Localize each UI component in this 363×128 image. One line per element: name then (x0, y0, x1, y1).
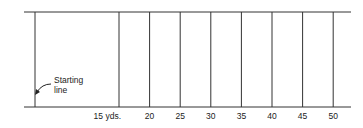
yard-label-30: 30 (206, 111, 216, 121)
yard-label-35: 35 (237, 111, 247, 121)
arrowhead-icon (35, 89, 40, 95)
yard-label-25: 25 (175, 111, 185, 121)
field-diagram: Starting line 15 yds.20253035404550 (0, 0, 363, 128)
yard-label-40: 40 (267, 111, 277, 121)
starting-label-line-1: Starting (54, 75, 84, 85)
yard-label-15: 15 yds. (94, 111, 121, 121)
yard-label-20: 20 (145, 111, 155, 121)
yard-markers: 15 yds.20253035404550 (94, 12, 339, 121)
starting-label-line-2: line (54, 85, 68, 95)
yard-label-45: 45 (298, 111, 308, 121)
yard-label-50: 50 (328, 111, 338, 121)
starting-line-label: Starting line (54, 75, 84, 95)
pointer-arrow-icon (37, 84, 51, 92)
